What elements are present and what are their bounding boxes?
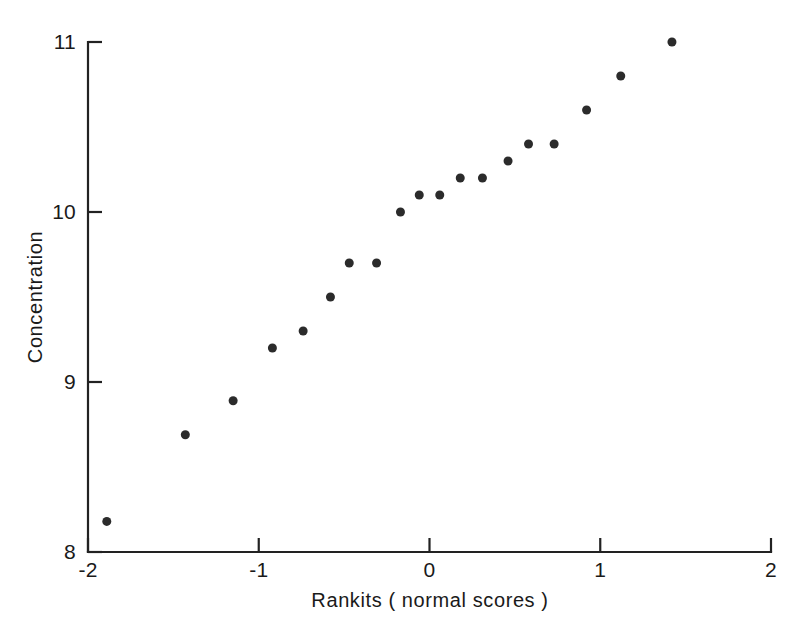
y-tick-label: 8 [64,540,76,563]
y-tick-label: 11 [54,30,76,53]
data-point [415,191,424,200]
figure-container: 891011 -2-1012 Rankits ( normal scores )… [0,0,810,632]
data-point [396,208,405,217]
y-axis-title: Concentration [24,231,46,363]
data-point [345,259,354,268]
x-axis-title: Rankits ( normal scores ) [311,589,548,611]
data-point [582,106,591,115]
data-point [268,344,277,353]
x-axis-ticks: -2-1012 [78,538,776,581]
data-point [456,174,465,183]
y-tick-label: 10 [52,200,76,223]
data-point [435,191,444,200]
rankit-scatter-plot: 891011 -2-1012 Rankits ( normal scores )… [0,0,810,632]
data-point [299,327,308,336]
axes-group [88,42,771,552]
data-point [102,517,111,526]
data-point [550,140,559,149]
x-tick-label: 0 [424,558,436,581]
data-point [229,396,238,405]
x-tick-label: 1 [594,558,606,581]
data-point [181,430,190,439]
x-tick-label: -1 [249,558,268,581]
data-points-layer [102,38,676,526]
y-axis-ticks: 891011 [52,30,102,563]
data-point [478,174,487,183]
data-point [372,259,381,268]
data-point [326,293,335,302]
data-point [667,38,676,47]
data-point [504,157,513,166]
y-tick-label: 9 [64,370,76,393]
data-point [616,72,625,81]
x-tick-label: -2 [78,558,97,581]
data-point [524,140,533,149]
x-tick-label: 2 [765,558,777,581]
